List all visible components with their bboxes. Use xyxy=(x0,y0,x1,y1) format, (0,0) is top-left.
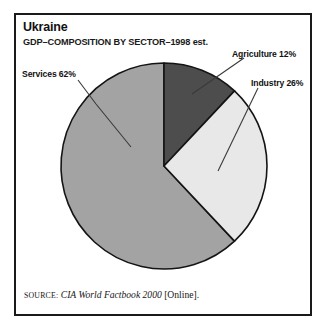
source-prefix: SOURCE: xyxy=(24,291,58,300)
slice-label-services: Services 62% xyxy=(22,69,76,79)
source-work-title: CIA World Factbook 2000 xyxy=(61,289,162,300)
source-suffix: [Online]. xyxy=(164,289,199,300)
figure-canvas: Ukraine GDP–COMPOSITION BY SECTOR–1998 e… xyxy=(0,0,328,331)
slice-label-agriculture: Agriculture 12% xyxy=(232,49,296,59)
source-citation: SOURCE: CIA World Factbook 2000 [Online]… xyxy=(24,289,199,300)
slice-label-industry: Industry 26% xyxy=(251,78,303,88)
